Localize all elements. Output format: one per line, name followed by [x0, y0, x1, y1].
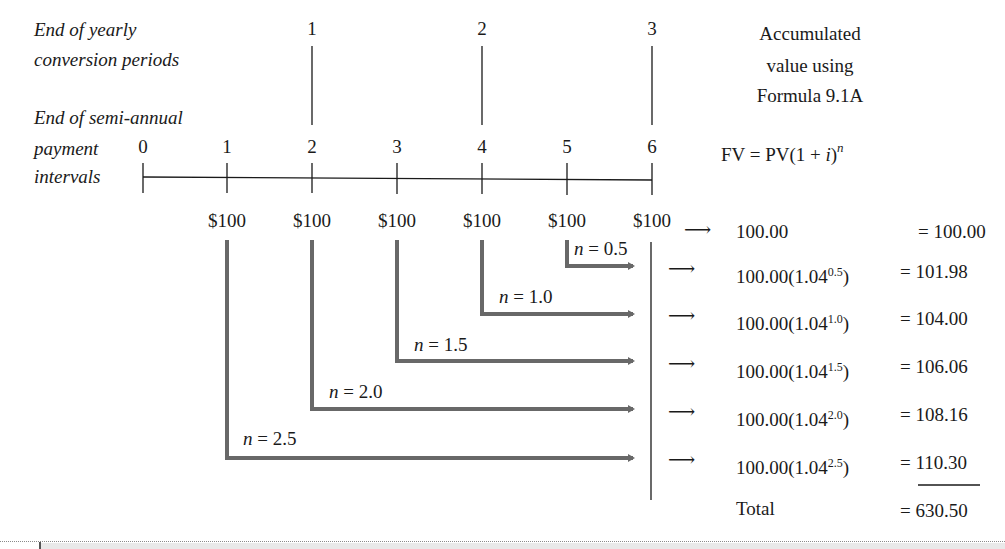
- row-arrow: ⟶: [668, 353, 695, 375]
- row-arrow: ⟶: [668, 305, 695, 327]
- row-result: = 108.16: [900, 404, 968, 426]
- row-expression: 100.00(1.041.5): [736, 356, 849, 383]
- row-arrow: ⟶: [668, 401, 695, 423]
- row-arrow: ⟶: [668, 449, 695, 471]
- page-bottom-tick: [39, 542, 41, 549]
- total-value: = 630.50: [900, 500, 968, 522]
- row-expression: 100.00: [736, 221, 788, 243]
- row-result: = 100.00: [918, 221, 986, 243]
- row-result: = 101.98: [900, 261, 968, 283]
- row-expression: 100.00(1.041.0): [736, 308, 849, 335]
- timeline-diagram: [0, 0, 1005, 549]
- row-result: = 110.30: [900, 452, 967, 474]
- page-bottom-strip: [40, 543, 1005, 549]
- row-expression: 100.00(1.040.5): [736, 261, 849, 288]
- row-result: = 106.06: [900, 356, 968, 378]
- row-arrow: ⟶: [668, 258, 695, 280]
- row-expression: 100.00(1.042.0): [736, 404, 849, 431]
- page-bottom-rule: [0, 541, 1005, 542]
- row-arrow: ⟶: [684, 219, 711, 241]
- row-result: = 104.00: [900, 308, 968, 330]
- row-expression: 100.00(1.042.5): [736, 452, 849, 479]
- total-label: Total: [736, 498, 775, 520]
